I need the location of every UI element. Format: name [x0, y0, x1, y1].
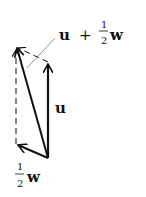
vector-sum — [17, 48, 48, 158]
label-sum-den: 2 — [101, 35, 107, 46]
label-sum: u + 1 2 w — [59, 19, 124, 46]
label-sum-plus: + — [79, 26, 92, 44]
label-half-w-den: 2 — [17, 178, 23, 189]
label-sum-w: w — [109, 26, 124, 44]
label-sum-u: u — [59, 26, 70, 44]
label-half-w-num: 1 — [17, 161, 23, 172]
label-half-w: 1 2 w — [15, 161, 41, 189]
vector-half-w — [18, 145, 48, 158]
vector-addition-diagram: u + 1 2 w u 1 2 w — [0, 0, 146, 197]
label-sum-num: 1 — [101, 19, 107, 30]
label-half-w-w: w — [26, 168, 41, 186]
label-u: u — [55, 99, 66, 117]
leader-line — [27, 38, 55, 68]
